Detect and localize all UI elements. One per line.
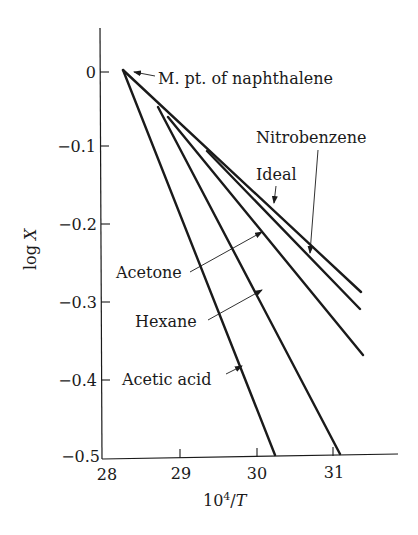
chart-figure: 0 −0.1 −0.2 −0.3 −0.4 −0.5 28 29 30 31 1… [0,0,418,535]
xtick-label: 28 [97,465,117,484]
mpt-arrow [134,72,155,76]
ideal-arrow [274,186,276,203]
ytick-label: −0.2 [58,215,97,234]
ytick-label: −0.1 [57,137,96,156]
label-acetic-acid: Acetic acid [121,370,211,389]
acetic-acid-arrow [226,366,242,374]
x-axis-label: 104/T [203,490,248,510]
x-ticks [180,447,333,458]
ytick-label: −0.4 [58,371,97,390]
label-hexane: Hexane [135,312,197,331]
ytick-label: 0 [86,63,96,82]
y-tick-labels: 0 −0.1 −0.2 −0.3 −0.4 −0.5 [57,63,100,466]
x-axis [102,454,398,459]
label-nitrobenzene: Nitrobenzene [256,128,367,147]
label-ideal: Ideal [256,165,297,184]
y-axis-label: log X [21,228,40,270]
xtick-label: 30 [247,464,267,483]
nitrobenzene-arrow [310,150,318,253]
x-tick-labels: 28 29 30 31 [97,463,344,484]
label-mpt-naphthalene: M. pt. of naphthalene [158,69,333,88]
series-acetone [168,117,363,355]
annotation-labels: M. pt. of naphthalene Nitrobenzene Ideal… [115,69,367,389]
series-hexane [158,107,340,454]
y-axis [100,28,102,459]
ytick-label: −0.5 [61,447,100,466]
ytick-label: −0.3 [58,293,97,312]
label-acetone: Acetone [115,263,182,282]
xtick-label: 29 [171,464,191,483]
series-ideal [123,70,361,292]
xtick-label: 31 [324,463,344,482]
axes: 0 −0.1 −0.2 −0.3 −0.4 −0.5 28 29 30 31 1… [21,28,398,510]
